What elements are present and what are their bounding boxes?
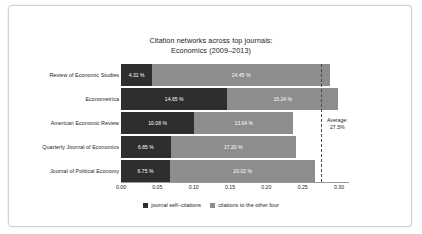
bar-segment-other-citations: 20.02 % — [170, 160, 315, 182]
average-reference-line — [321, 64, 322, 182]
legend-swatch-icon — [210, 203, 215, 208]
bar-value-label: 14.65 % — [165, 96, 184, 102]
legend-item-self-citations: journal self–citations — [143, 202, 201, 208]
bar-row: Quarterly Journal of Economics 6.85 % 17… — [9, 136, 413, 158]
average-annotation: Average: 27.5% — [327, 117, 348, 131]
chart-card: Citation networks across top journals: E… — [8, 5, 412, 227]
average-annotation-line1: Average: — [327, 117, 348, 123]
bar-segment-self-citations: 4.31 % — [121, 64, 152, 86]
bar-value-label: 20.02 % — [233, 168, 252, 174]
category-label: Econometrica — [85, 96, 119, 102]
bar-value-label: 10.08 % — [148, 120, 167, 126]
x-axis-line — [121, 182, 349, 183]
bar-segment-self-citations: 14.65 % — [121, 88, 227, 110]
x-tick-label: 0.10 — [189, 184, 199, 190]
x-tick-label: 0.30 — [334, 184, 344, 190]
bar-segment-self-citations: 6.85 % — [121, 136, 171, 158]
bar-row: Econometrica 14.65 % 15.24 % — [9, 88, 413, 110]
legend-swatch-icon — [143, 203, 148, 208]
bar-value-label: 13.64 % — [234, 120, 253, 126]
bar-value-label: 15.24 % — [273, 96, 292, 102]
bar-segment-other-citations: 17.20 % — [171, 136, 296, 158]
legend-label: citations to the other four — [218, 202, 279, 208]
x-tick-label: 0.25 — [298, 184, 308, 190]
legend-label: journal self–citations — [151, 202, 201, 208]
category-label: Journal of Political Economy — [50, 168, 119, 174]
bar-segment-other-citations: 24.45 % — [152, 64, 330, 86]
bar-segment-self-citations: 10.08 % — [121, 112, 194, 134]
x-tick-label: 0.00 — [116, 184, 126, 190]
bar-row: Review of Economic Studies 4.31 % 24.45 … — [9, 64, 413, 86]
x-tick-label: 0.20 — [261, 184, 271, 190]
bar-value-label: 6.85 % — [138, 144, 154, 150]
category-label: Quarterly Journal of Economics — [42, 144, 119, 150]
bar-segment-other-citations: 13.64 % — [194, 112, 293, 134]
bar-row: Journal of Political Economy 6.75 % 20.0… — [9, 160, 413, 182]
bar-value-label: 4.31 % — [129, 72, 145, 78]
bar-value-label: 17.20 % — [224, 144, 243, 150]
average-annotation-line2: 27.5% — [330, 124, 345, 130]
plot-area: Review of Economic Studies 4.31 % 24.45 … — [9, 6, 413, 228]
bar-value-label: 6.75 % — [138, 168, 154, 174]
category-label: American Economic Review — [51, 120, 119, 126]
bar-segment-self-citations: 6.75 % — [121, 160, 170, 182]
bar-row: American Economic Review 10.08 % 13.64 % — [9, 112, 413, 134]
x-tick-label: 0.05 — [152, 184, 162, 190]
chart-legend: journal self–citations citations to the … — [9, 202, 413, 208]
bar-value-label: 24.45 % — [232, 72, 251, 78]
x-tick-label: 0.15 — [225, 184, 235, 190]
legend-item-other-citations: citations to the other four — [210, 202, 279, 208]
category-label: Review of Economic Studies — [49, 72, 119, 78]
